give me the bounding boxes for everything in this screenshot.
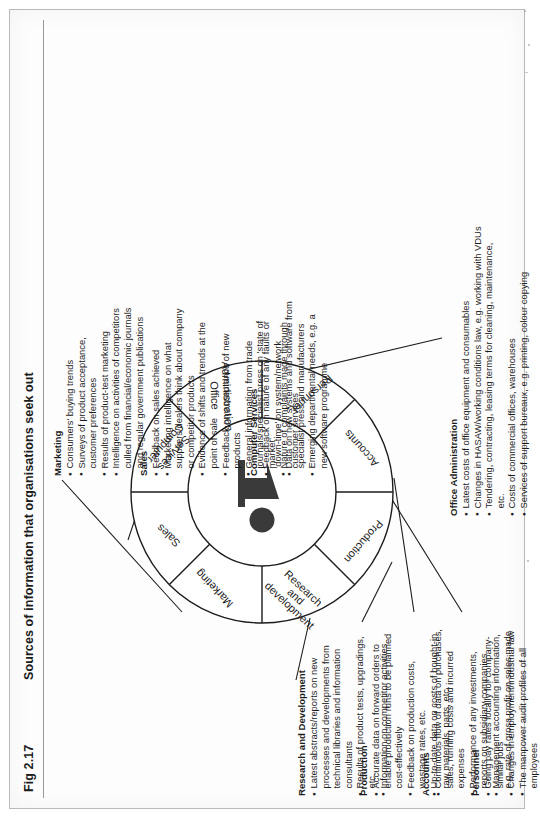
block-heading-accounts: Accounts (420, 620, 432, 796)
block-heading-production: Production (358, 626, 370, 796)
list-item: Latest abstracts/reports on new processe… (308, 626, 354, 796)
list-item: Evidence of shifts and trends at the poi… (196, 300, 219, 476)
list-item: Services of support bureaux, e.g. printi… (518, 226, 530, 516)
list-item: Surveys of product acceptance, customer … (76, 300, 99, 476)
figure-page: Fig 2.17 Sources of information that org… (9, 9, 525, 809)
list-item: The manpower audit profiles of all emplo… (517, 620, 540, 796)
text-block-computer-services: Computer Services Feedback on nature of … (248, 300, 330, 476)
list-item: Costs of commercial offices, warehouses (506, 226, 518, 516)
list-item: Feedback on sales achieved (150, 300, 162, 476)
list-item: Emerging departmental needs, e.g. a new … (306, 300, 329, 476)
block-list-office-administration: Latest costs of office equipment and con… (460, 226, 530, 516)
list-item: Feedback on nature of any faults or 'dow… (260, 300, 283, 476)
page-sheet: Fig 2.17 Sources of information that org… (9, 9, 525, 809)
scan-speck (524, 10, 526, 12)
block-list-computer-services: Feedback on nature of any faults or 'dow… (260, 300, 330, 476)
list-item: Accurate data on forward orders to enabl… (370, 626, 405, 796)
list-item: Latest costs of office equipment and con… (460, 226, 472, 516)
block-heading-research-and-development: Research and Development (296, 626, 308, 796)
figure-number: Fig 2.17 (22, 745, 36, 792)
text-block-office-administration: Office Administration Latest costs of of… (448, 226, 530, 516)
scan-speck (527, 560, 529, 562)
list-item: Changes in HASAW/working conditions law,… (472, 226, 484, 516)
list-item: Marketing intelligence on what suppliers… (162, 300, 197, 476)
list-item: Going pay rates locally for company-simi… (482, 620, 505, 796)
block-list-personnel: Going pay rates locally for company-simi… (482, 620, 540, 796)
block-heading-office-administration: Office Administration (448, 226, 460, 516)
list-item: Data on new systems and software from sp… (283, 300, 306, 476)
scan-speck (525, 72, 528, 73)
text-block-marketing: Marketing Consumers' buying trends Surve… (52, 300, 145, 476)
figure-title: Sources of information that organisation… (22, 372, 36, 680)
block-heading-marketing: Marketing (52, 300, 64, 476)
block-heading-personnel: Personnel (470, 620, 482, 796)
scan-speck (523, 700, 525, 702)
scan-speck (528, 44, 530, 46)
block-heading-computer-services: Computer Services (248, 300, 260, 476)
list-item: Changes in employment/industrial law (505, 620, 517, 796)
list-item: Consumers' buying trends (64, 300, 76, 476)
list-item: Tendering, contracting, leasing terms fo… (483, 226, 506, 516)
block-heading-sales: Sales (138, 300, 150, 476)
list-item: Continuous flow of data on purchases, sa… (432, 620, 467, 796)
text-block-personnel: Personnel Going pay rates locally for co… (470, 620, 540, 796)
list-item: Results of product-test marketing (99, 300, 111, 476)
block-list-marketing: Consumers' buying trends Surveys of prod… (64, 300, 145, 476)
header-rule (43, 20, 44, 798)
list-item: Feedback on acceptance of new products (220, 300, 243, 476)
